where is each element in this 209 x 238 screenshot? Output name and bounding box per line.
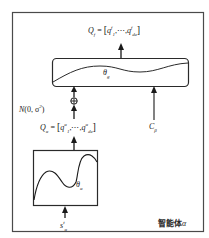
output-q-f-label: Qf = [qf1,⋯,qfda] — [88, 25, 140, 35]
q-alpha-close-bracket: ] — [93, 121, 96, 132]
combine-op-icon — [71, 98, 77, 104]
q-alpha-label: Qα = [qα1,⋯,qαda] — [40, 122, 96, 132]
local-network-curve — [34, 155, 97, 200]
local-network-param: θα — [76, 181, 83, 189]
c-beta-subscript: β — [154, 128, 157, 133]
q-alpha-ellipsis: ,⋯, — [69, 123, 81, 132]
arrow-plus-to-global — [71, 86, 77, 97]
local-network-box — [34, 151, 98, 206]
arrow-q-alpha-to-plus — [71, 105, 77, 120]
theta-alpha-subscript: α — [80, 186, 83, 191]
arrow-context-to-global — [151, 86, 157, 120]
theta-g-subscript: g — [107, 74, 110, 79]
agent-label-text: 智能体 — [158, 219, 182, 228]
q-f-close-bracket: ] — [137, 24, 140, 35]
q-alpha-equals: = — [48, 123, 57, 132]
global-network-box — [53, 59, 189, 87]
global-network-param: θg — [103, 69, 109, 77]
global-network-curve — [53, 63, 188, 82]
s-subscript: α — [65, 227, 68, 232]
noise-close: ) — [42, 105, 45, 114]
context-input-label: Cβ — [149, 123, 157, 131]
q-f-ellipsis: ,⋯, — [115, 26, 127, 35]
q-f-last-sup: f — [131, 25, 132, 30]
noise-args: (0, σ — [24, 105, 39, 114]
q-f-equals: = — [95, 26, 104, 35]
arrow-to-q-f — [118, 43, 124, 58]
diagram-graphics — [0, 0, 209, 238]
q-alpha-last-sup: α — [85, 122, 88, 127]
arrow-local-to-q-alpha — [71, 136, 77, 150]
noise-label: N(0, σ2) — [19, 106, 45, 114]
agent-frame-label: 智能体α — [158, 217, 186, 228]
s-superscript: t — [63, 220, 64, 225]
agent-architecture-diagram: Qf = [qf1,⋯,qfda] θg N(0, σ2) Qα = [qα1,… — [0, 0, 209, 238]
arrow-state-to-local — [62, 206, 68, 218]
state-input-label: stα — [60, 222, 67, 230]
q-alpha-first-sup: α — [64, 122, 67, 127]
q-f-first-sup: f — [111, 25, 112, 30]
agent-label-symbol: α — [182, 219, 186, 228]
